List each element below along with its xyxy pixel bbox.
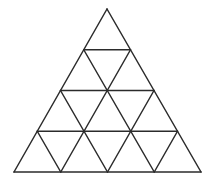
right-diagonal-line xyxy=(61,50,131,172)
triangle-grid-canvas xyxy=(0,0,213,186)
grid-lines xyxy=(14,9,201,172)
right-diagonal-line xyxy=(154,131,177,172)
left-diagonal-line xyxy=(84,50,155,172)
left-diagonal-line xyxy=(37,131,61,172)
